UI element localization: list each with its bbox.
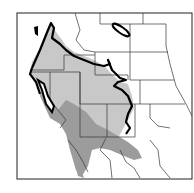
range-map: [0, 0, 194, 193]
